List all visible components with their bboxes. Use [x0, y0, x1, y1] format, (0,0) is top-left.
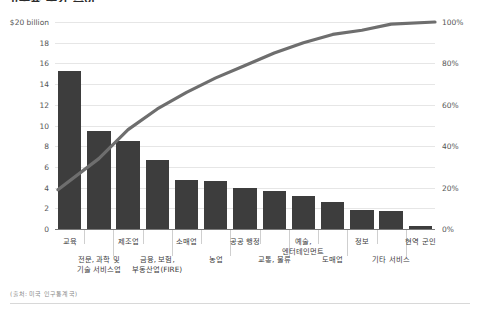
x-label-line: 기타 서비스 — [355, 255, 427, 265]
y-tick-left-20: $20 billion — [10, 18, 49, 27]
y-tick-left-6: 6 — [44, 162, 49, 171]
x-axis-label: 기타 서비스 — [355, 255, 427, 265]
plot-area: 024681012141618$20 billion 0%20%40%60%80… — [55, 22, 435, 229]
y-tick-left-8: 8 — [44, 142, 49, 151]
y-tick-left-10: 10 — [39, 121, 49, 130]
y-tick-left-12: 12 — [39, 100, 49, 109]
y-tick-right-40: 40% — [442, 142, 459, 151]
y-tick-left-14: 14 — [39, 80, 49, 89]
x-label-line: 부동산업(FIRE) — [121, 265, 193, 275]
y-tick-right-60: 60% — [442, 100, 459, 109]
x-label-line: 현역 군인 — [384, 237, 456, 247]
cumulative-line-series — [55, 22, 435, 229]
footer-divider — [10, 303, 470, 304]
x-axis-labels: 교육제조업소매업공공 행정예술,엔터테인먼트정보현역 군인전문, 과학 및기술 … — [0, 229, 480, 281]
y-tick-left-2: 2 — [44, 204, 49, 213]
chart-page: 고용률 증가 추이 024681012141618$20 billion 0%2… — [0, 0, 480, 311]
page-title: 고용률 증가 추이 — [8, 0, 95, 2]
y-tick-right-80: 80% — [442, 59, 459, 68]
y-tick-right-100: 100% — [442, 18, 463, 27]
y-tick-left-18: 18 — [39, 38, 49, 47]
x-axis-label: 현역 군인 — [384, 237, 456, 247]
y-tick-left-4: 4 — [44, 183, 49, 192]
y-tick-right-20: 20% — [442, 183, 459, 192]
y-tick-left-16: 16 — [39, 59, 49, 68]
source-note: (출처: 미국 인구통계국) — [10, 289, 77, 298]
